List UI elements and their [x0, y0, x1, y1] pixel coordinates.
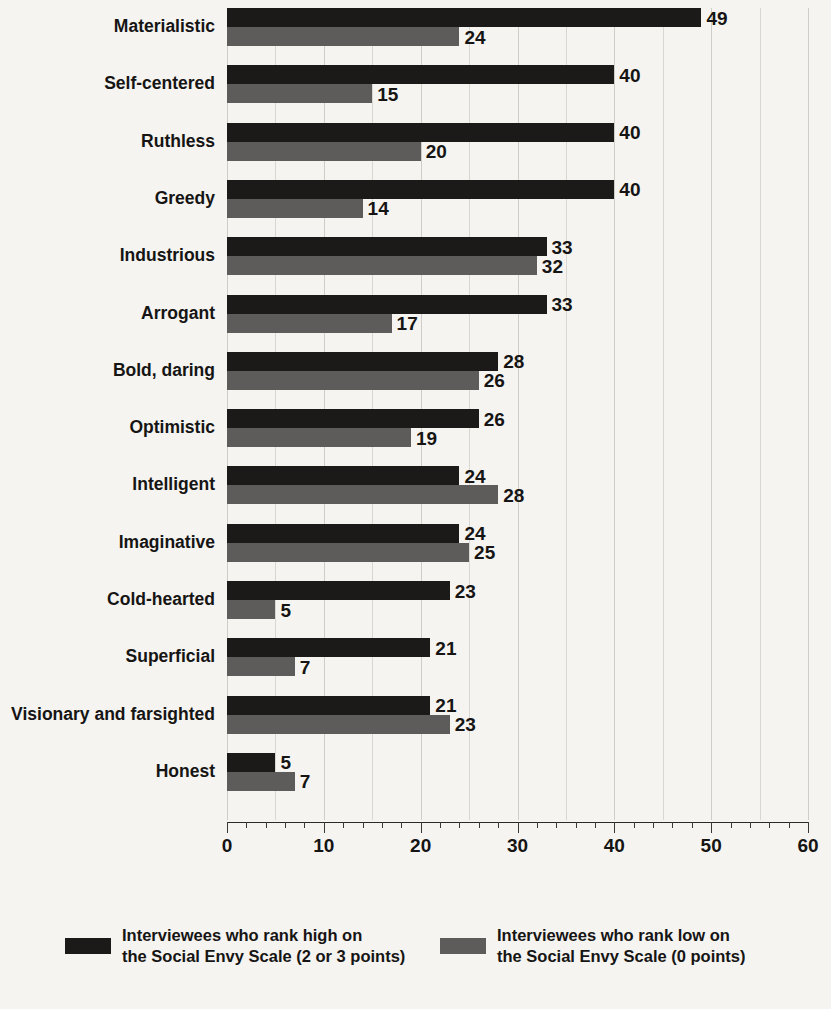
- x-axis-minor-tick: [343, 822, 344, 828]
- bar-value-label: 7: [300, 657, 311, 676]
- bar-row: 4924: [227, 8, 808, 46]
- bar-value-label: 33: [552, 295, 573, 314]
- bar-value-label: 49: [706, 8, 727, 27]
- x-axis-minor-tick: [789, 822, 790, 828]
- category-label: Visionary and farsighted: [0, 706, 215, 724]
- bar-high: 40: [227, 65, 614, 84]
- bar-value-label: 15: [377, 84, 398, 103]
- x-axis-minor-tick: [285, 822, 286, 828]
- x-axis-minor-tick: [653, 822, 654, 828]
- bar-row: 57: [227, 753, 808, 791]
- bar-high: 24: [227, 524, 459, 543]
- x-axis-minor-tick: [479, 822, 480, 828]
- chart-legend: Interviewees who rank high onthe Social …: [0, 925, 831, 1000]
- x-axis-minor-tick: [459, 822, 460, 828]
- bar-value-label: 14: [368, 199, 389, 218]
- bar-row: 4014: [227, 180, 808, 218]
- x-axis-minor-tick: [692, 822, 693, 828]
- bar-value-label: 28: [503, 352, 524, 371]
- bar-row: 2123: [227, 696, 808, 734]
- category-label: Cold-hearted: [0, 591, 215, 609]
- x-axis-minor-tick: [576, 822, 577, 828]
- legend-label-line1: Interviewees who rank low on: [497, 925, 746, 946]
- bar-row: 2619: [227, 409, 808, 447]
- bar-high: 24: [227, 466, 459, 485]
- x-axis-tick-label: 20: [410, 836, 431, 855]
- x-axis-minor-tick: [634, 822, 635, 828]
- bar-value-label: 19: [416, 428, 437, 447]
- x-axis-tick-label: 60: [797, 836, 818, 855]
- x-axis-minor-tick: [363, 822, 364, 828]
- legend-label-line2: the Social Envy Scale (0 points): [497, 946, 746, 967]
- bar-high: 5: [227, 753, 275, 772]
- x-axis-minor-tick: [556, 822, 557, 828]
- category-label: Ruthless: [0, 133, 215, 151]
- bar-row: 2425: [227, 524, 808, 562]
- category-label: Bold, daring: [0, 362, 215, 380]
- x-axis-major-tick: [421, 822, 422, 833]
- x-axis-minor-tick: [401, 822, 402, 828]
- legend-label: Interviewees who rank low onthe Social E…: [497, 925, 746, 967]
- x-axis-major-tick: [518, 822, 519, 833]
- bar-low: 17: [227, 314, 392, 333]
- bar-value-label: 24: [464, 466, 485, 485]
- category-label: Optimistic: [0, 419, 215, 437]
- bar-value-label: 21: [435, 638, 456, 657]
- category-label: Industrious: [0, 247, 215, 265]
- bar-low: 5: [227, 600, 275, 619]
- category-label: Intelligent: [0, 476, 215, 494]
- x-axis-minor-tick: [731, 822, 732, 828]
- bar-low: 26: [227, 371, 479, 390]
- bar-value-label: 40: [619, 180, 640, 199]
- bar-value-label: 20: [426, 142, 447, 161]
- bar-low: 15: [227, 84, 372, 103]
- chart-page: MaterialisticSelf-centeredRuthlessGreedy…: [0, 0, 831, 1009]
- x-axis-minor-tick: [266, 822, 267, 828]
- plot-area: 4924401540204014333233172826261924282425…: [227, 8, 808, 820]
- bar-value-label: 5: [280, 753, 291, 772]
- bar-row: 4020: [227, 123, 808, 161]
- bar-value-label: 33: [552, 237, 573, 256]
- bar-value-label: 26: [484, 409, 505, 428]
- bar-high: 40: [227, 123, 614, 142]
- x-axis-minor-tick: [750, 822, 751, 828]
- bar-row: 2826: [227, 352, 808, 390]
- x-axis-minor-tick: [440, 822, 441, 828]
- bar-value-label: 7: [300, 772, 311, 791]
- bar-value-label: 40: [619, 65, 640, 84]
- bar-value-label: 26: [484, 371, 505, 390]
- bar-low: 19: [227, 428, 411, 447]
- category-label: Self-centered: [0, 75, 215, 93]
- bar-high: 49: [227, 8, 701, 27]
- bar-value-label: 21: [435, 696, 456, 715]
- legend-item[interactable]: Interviewees who rank high onthe Social …: [65, 925, 405, 967]
- x-axis-major-tick: [711, 822, 712, 833]
- bar-low: 14: [227, 199, 363, 218]
- bar-high: 21: [227, 696, 430, 715]
- x-axis-major-tick: [227, 822, 228, 833]
- x-axis-tick-label: 10: [313, 836, 334, 855]
- x-axis-tick-label: 0: [222, 836, 233, 855]
- bar-low: 25: [227, 543, 469, 562]
- bar-row: 217: [227, 638, 808, 676]
- category-label: Imaginative: [0, 534, 215, 552]
- bar-value-label: 5: [280, 600, 291, 619]
- bar-high: 28: [227, 352, 498, 371]
- bar-low: 7: [227, 772, 295, 791]
- x-axis-minor-tick: [672, 822, 673, 828]
- x-axis-minor-tick: [769, 822, 770, 828]
- legend-label-line1: Interviewees who rank high on: [122, 925, 405, 946]
- bar-row: 3332: [227, 237, 808, 275]
- category-label: Materialistic: [0, 18, 215, 36]
- bar-high: 33: [227, 295, 547, 314]
- legend-item[interactable]: Interviewees who rank low onthe Social E…: [440, 925, 746, 967]
- bar-high: 40: [227, 180, 614, 199]
- bar-value-label: 23: [455, 581, 476, 600]
- bar-value-label: 24: [464, 524, 485, 543]
- x-axis-tick-label: 30: [507, 836, 528, 855]
- category-label: Superficial: [0, 648, 215, 666]
- x-axis-minor-tick: [382, 822, 383, 828]
- bar-row: 3317: [227, 295, 808, 333]
- x-axis-major-tick: [808, 822, 809, 833]
- x-axis-minor-tick: [304, 822, 305, 828]
